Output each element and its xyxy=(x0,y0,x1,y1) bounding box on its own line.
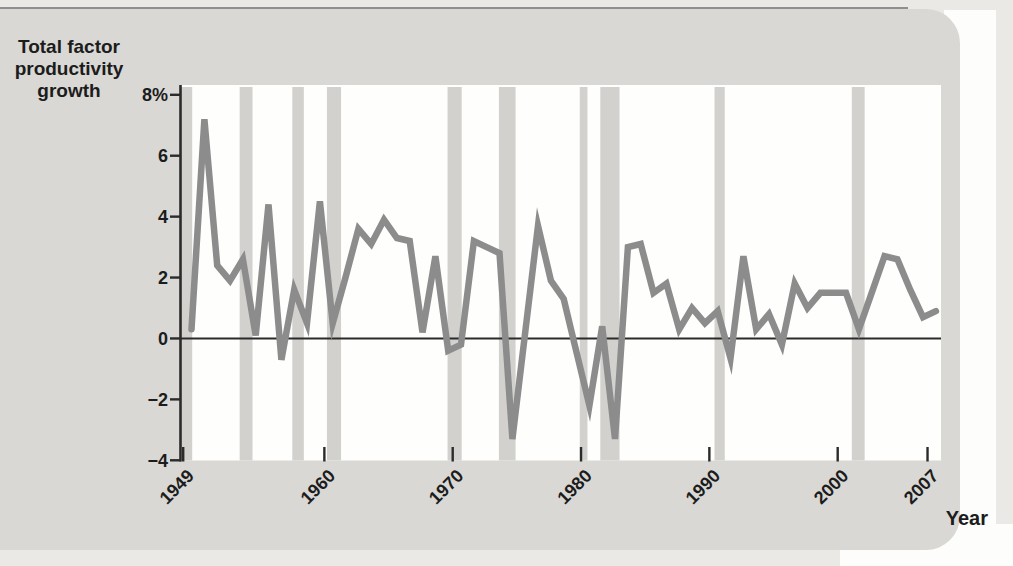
y-tick-label: 4 xyxy=(158,207,168,227)
chart-svg: 8%6420−2−41949196019701980199020002007 xyxy=(0,0,1013,566)
y-tick-label: 2 xyxy=(158,268,168,288)
recession-band xyxy=(292,87,304,461)
y-axis-title: Total factor productivity growth xyxy=(2,36,136,102)
y-tick-label: 8% xyxy=(142,85,168,105)
y-tick-label: −4 xyxy=(147,451,168,471)
recession-band xyxy=(852,87,865,461)
y-axis-title-line: growth xyxy=(2,80,136,102)
x-tick-label: 2000 xyxy=(810,466,852,508)
x-axis-title: Year xyxy=(898,507,988,530)
y-axis-title-line: Total factor xyxy=(2,36,136,58)
recession-band xyxy=(714,87,724,461)
page: { "figure": { "y_axis_title_lines": ["To… xyxy=(0,0,1013,566)
x-tick-label: 1970 xyxy=(425,466,467,508)
y-tick-label: 0 xyxy=(158,329,168,349)
x-tick-label: 1960 xyxy=(297,466,339,508)
x-tick-label: 1949 xyxy=(156,466,198,508)
x-tick-label: 2007 xyxy=(900,466,942,508)
y-axis-title-line: productivity xyxy=(2,58,136,80)
recession-band xyxy=(448,87,462,461)
x-tick-label: 1990 xyxy=(682,466,724,508)
x-tick-label: 1980 xyxy=(553,466,595,508)
recession-band xyxy=(181,87,193,461)
y-tick-label: 6 xyxy=(158,146,168,166)
y-tick-label: −2 xyxy=(147,390,168,410)
